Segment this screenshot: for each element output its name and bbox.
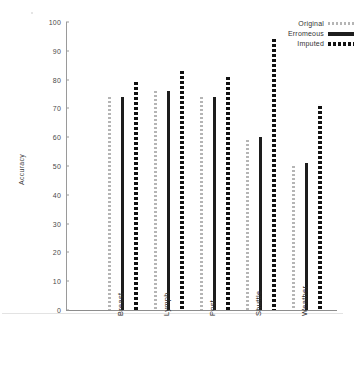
- bar-breast-erromeous: [121, 97, 124, 310]
- y-axis-tick-labels: 0102030405060708090100: [34, 0, 61, 374]
- bar-weather-original: [292, 166, 295, 310]
- x-axis-label-post: Post: [208, 300, 217, 316]
- bar-breast-original: [108, 97, 111, 310]
- x-axis-label-breast: Breast: [116, 293, 125, 316]
- y-axis-tick-10: 10: [53, 278, 61, 285]
- dotted-dark-line-icon: [328, 42, 354, 46]
- bar-lymph-original: [154, 91, 157, 310]
- x-axis-label-lymph: Lymph: [162, 292, 171, 316]
- y-axis-tick-70: 70: [53, 105, 61, 112]
- y-axis-tick-mark: [66, 79, 69, 80]
- x-axis-label-shuttle: Shuttle: [254, 291, 263, 316]
- plot-area: [66, 22, 336, 310]
- y-axis-tick-0: 0: [57, 307, 61, 314]
- x-axis-label-weather: Weather: [300, 286, 309, 316]
- y-axis-title: Accuracy: [18, 140, 25, 200]
- y-axis-tick-60: 60: [53, 134, 61, 141]
- bar-post-erromeous: [213, 97, 216, 310]
- y-axis-tick-mark: [66, 108, 69, 109]
- chart-legend: OriginalErromeousImputed: [258, 19, 354, 49]
- legend-label: Erromeous: [288, 30, 324, 37]
- y-axis-tick-mark: [66, 50, 69, 51]
- legend-item-erromeous: Erromeous: [258, 29, 354, 38]
- y-axis-tick-40: 40: [53, 191, 61, 198]
- bar-post-original: [200, 97, 203, 310]
- bar-weather-imputed: [318, 106, 322, 310]
- bar-shuttle-original: [246, 140, 249, 310]
- y-axis-tick-mark: [66, 310, 69, 311]
- y-axis-tick-50: 50: [53, 163, 61, 170]
- legend-item-imputed: Imputed: [258, 39, 354, 48]
- y-axis-tick-90: 90: [53, 47, 61, 54]
- legend-item-original: Original: [258, 19, 354, 28]
- x-axis-line: [66, 310, 337, 311]
- legend-label: Original: [298, 20, 324, 27]
- y-axis-tick-mark: [66, 166, 69, 167]
- y-axis-tick-100: 100: [49, 19, 61, 26]
- bar-shuttle-erromeous: [259, 137, 262, 310]
- dotted-light-line-icon: [328, 22, 354, 25]
- legend-label: Imputed: [297, 40, 324, 47]
- scan-artifact-speck: [31, 12, 33, 14]
- y-axis-tick-20: 20: [53, 249, 61, 256]
- y-axis-tick-80: 80: [53, 76, 61, 83]
- y-axis-tick-mark: [66, 137, 69, 138]
- bar-post-imputed: [226, 77, 230, 310]
- y-axis-tick-mark: [66, 194, 69, 195]
- bar-shuttle-imputed: [272, 39, 276, 310]
- bar-lymph-erromeous: [167, 91, 170, 310]
- y-axis-tick-30: 30: [53, 220, 61, 227]
- solid-line-icon: [328, 32, 354, 36]
- y-axis-tick-mark: [66, 252, 69, 253]
- y-axis-tick-mark: [66, 281, 69, 282]
- bar-lymph-imputed: [180, 71, 184, 310]
- y-axis-tick-mark: [66, 223, 69, 224]
- y-axis-tick-mark: [66, 22, 69, 23]
- bar-breast-imputed: [134, 82, 138, 310]
- accuracy-bar-chart: Accuracy 0102030405060708090100 BreastLy…: [0, 0, 360, 374]
